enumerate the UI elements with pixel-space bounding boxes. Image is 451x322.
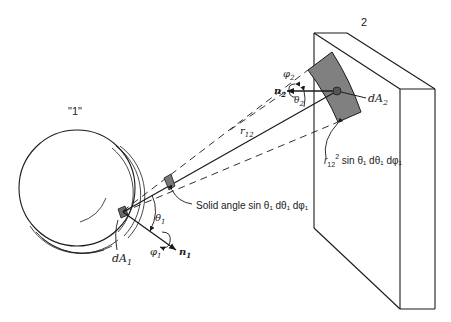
- dA2-element: [333, 87, 341, 95]
- r12-line: [123, 91, 337, 212]
- surface-1-label: "1": [68, 105, 82, 117]
- n2-label: n2: [274, 85, 286, 99]
- theta2-label: θ2: [294, 95, 304, 108]
- phi2-label: φ2: [283, 68, 295, 82]
- surface-1-sphere: [19, 130, 145, 253]
- normal-n1-arrow: [123, 212, 176, 250]
- dA1-label: dA1: [112, 252, 132, 267]
- projected-area-patch: [308, 52, 361, 122]
- dA2-label: dA2: [368, 92, 388, 107]
- surface-2-label: 2: [361, 16, 367, 28]
- n1-label: n1: [179, 246, 191, 260]
- r12-label: r12: [240, 125, 254, 139]
- theta1-label: θ1: [155, 212, 166, 226]
- radiation-geometry-diagram: "1" 2 dA1 dA2 n1 n2 θ1 θ2 φ1 φ2 r12 Soli…: [0, 0, 451, 322]
- theta2-arc: [304, 91, 305, 107]
- projected-area-label: r122 sin θ₁ dθ₁ dφ₁: [324, 153, 402, 168]
- solid-angle-label: Solid angle sin θ₁ dθ₁ dφ₁: [196, 200, 309, 211]
- phi1-label: φ1: [150, 246, 161, 260]
